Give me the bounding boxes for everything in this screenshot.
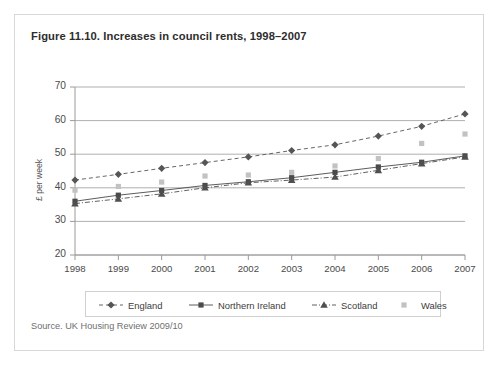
- y-axis-tick-label: 30: [40, 214, 66, 225]
- series-line: [75, 114, 465, 180]
- line-chart-svg: [15, 55, 483, 315]
- legend-item-label: Wales: [421, 300, 447, 311]
- legend-item-label: Scotland: [341, 300, 377, 311]
- legend-item-label: England: [128, 300, 162, 311]
- data-point: [332, 163, 337, 168]
- x-axis-tick-label: 1999: [96, 263, 140, 274]
- legend-item-label: Northern Ireland: [218, 300, 286, 311]
- data-point: [72, 188, 77, 193]
- data-point: [158, 165, 165, 172]
- y-axis-tick-label: 20: [40, 248, 66, 259]
- x-axis-tick-label: 2007: [443, 263, 487, 274]
- figure-title: Figure 11.10. Increases in council rents…: [31, 30, 307, 42]
- series-line: [75, 156, 465, 201]
- series-northern-ireland: [72, 153, 467, 204]
- x-axis-tick-label: 2002: [226, 263, 270, 274]
- y-axis-tick-label: 60: [40, 114, 66, 125]
- data-point: [202, 173, 207, 178]
- x-axis-tick-label: 2001: [183, 263, 227, 274]
- x-axis-tick-label: 1998: [53, 263, 97, 274]
- data-point: [419, 141, 424, 146]
- figure-panel: Figure 11.10. Increases in council rents…: [14, 14, 484, 351]
- y-axis-tick-label: 70: [40, 80, 66, 91]
- legend-item-northern-ireland[interactable]: Northern Ireland: [188, 297, 286, 313]
- data-point: [289, 170, 294, 175]
- y-axis-tick-label: 40: [40, 181, 66, 192]
- legend-item-scotland[interactable]: Scotland: [311, 297, 377, 313]
- data-point: [376, 156, 381, 161]
- data-point: [375, 132, 382, 139]
- legend-item-england[interactable]: England: [98, 297, 162, 313]
- y-axis-tick-label: 50: [40, 147, 66, 158]
- data-point: [115, 195, 123, 202]
- data-point: [288, 147, 295, 154]
- legend-marker-icon: [391, 299, 417, 311]
- legend-marker-icon: [311, 299, 337, 311]
- data-point: [418, 123, 425, 130]
- data-point: [331, 141, 338, 148]
- series-england: [71, 110, 468, 183]
- data-point: [461, 110, 468, 117]
- data-point: [71, 176, 78, 183]
- data-point: [246, 172, 251, 177]
- legend-item-wales[interactable]: Wales: [391, 297, 447, 313]
- chart-legend: EnglandNorthern IrelandScotlandWales: [85, 291, 441, 317]
- x-axis-tick-label: 2000: [140, 263, 184, 274]
- x-axis-tick-label: 2006: [400, 263, 444, 274]
- legend-marker-icon: [188, 299, 214, 311]
- x-axis-tick-label: 2005: [356, 263, 400, 274]
- data-point: [115, 171, 122, 178]
- series-wales: [72, 131, 467, 192]
- chart-plot-area: £ per week 203040506070 1998199920002001…: [15, 55, 483, 315]
- data-point: [462, 131, 467, 136]
- x-axis-tick-label: 2003: [270, 263, 314, 274]
- data-point: [201, 159, 208, 166]
- source-note: Source. UK Housing Review 2009/10: [31, 321, 183, 331]
- data-point: [159, 179, 164, 184]
- legend-marker-icon: [98, 299, 124, 311]
- data-point: [116, 184, 121, 189]
- x-axis-tick-label: 2004: [313, 263, 357, 274]
